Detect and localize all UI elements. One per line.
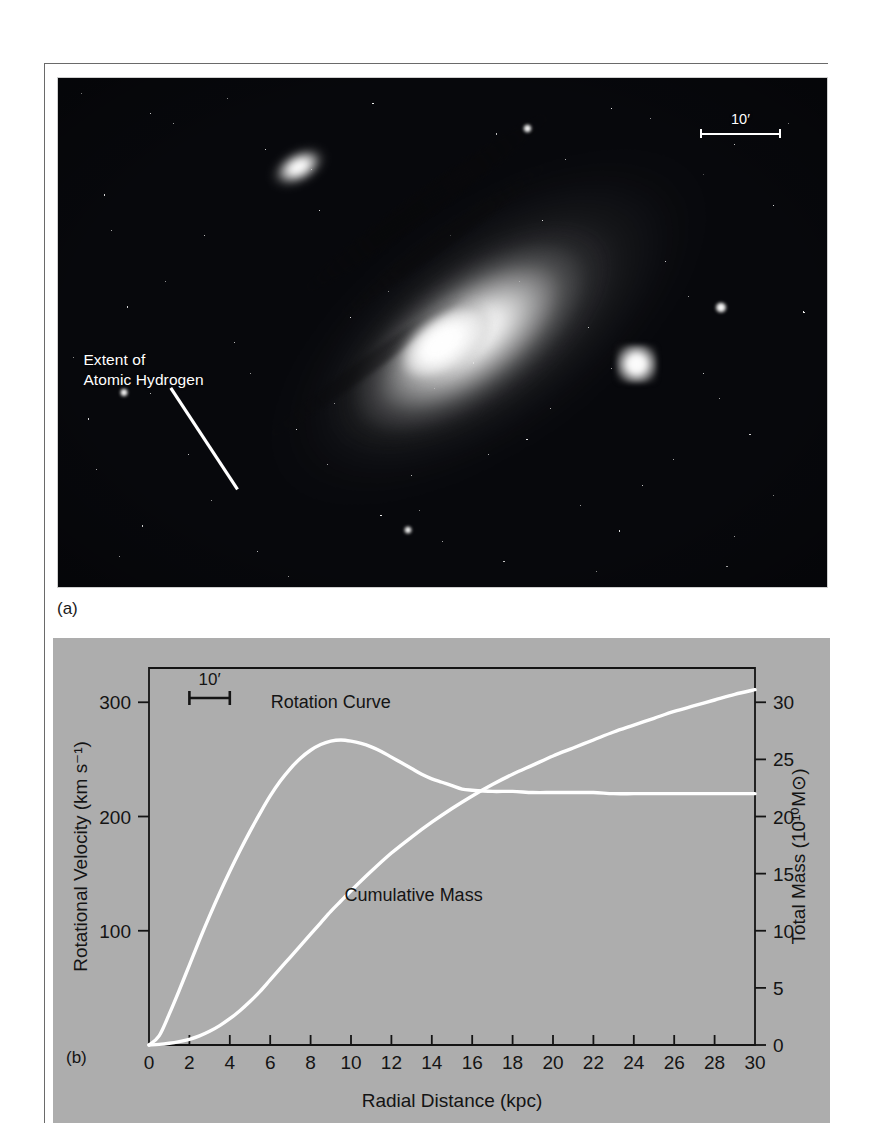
- companion-galaxy-lower-right: [616, 345, 658, 383]
- chart-svg: 0246810121416182022242628301002003000510…: [53, 638, 830, 1123]
- y-axis-left-tick-label: 100: [99, 921, 131, 942]
- x-axis-tick-label: 14: [421, 1052, 443, 1073]
- x-axis-tick-label: 18: [502, 1052, 523, 1073]
- y-axis-left-tick-label: 200: [99, 807, 131, 828]
- scalebar-cap-right: [779, 129, 781, 138]
- rotation-curve-chart: 0246810121416182022242628301002003000510…: [53, 638, 830, 1123]
- y-axis-left-title: Rotational Velocity (km s⁻¹): [70, 741, 91, 972]
- galaxy-photograph: Extent of Atomic Hydrogen 10′: [57, 77, 828, 588]
- x-axis-tick-label: 16: [462, 1052, 483, 1073]
- x-axis-tick-label: 4: [225, 1052, 236, 1073]
- scalebar-line: [700, 133, 781, 135]
- photo-scalebar-label: 10′: [700, 111, 781, 127]
- rotation-curve-label: Rotation Curve: [271, 692, 391, 712]
- chart-angular-scalebar: 10′: [189, 670, 229, 705]
- x-axis-tick-label: 10: [340, 1052, 361, 1073]
- y-axis-right-tick-label: 5: [773, 978, 784, 999]
- photo-scalebar: 10′: [700, 111, 781, 138]
- x-axis-title: Radial Distance (kpc): [362, 1090, 543, 1111]
- x-axis-tick-label: 26: [664, 1052, 685, 1073]
- y-axis-right-tick-label: 0: [773, 1035, 784, 1056]
- x-axis-tick-label: 12: [381, 1052, 402, 1073]
- panel-a: Extent of Atomic Hydrogen 10′ (a): [44, 63, 830, 623]
- x-axis-tick-label: 0: [144, 1052, 155, 1073]
- series-curve: [149, 690, 755, 1045]
- plot-frame: [149, 668, 755, 1045]
- x-axis-tick-label: 24: [623, 1052, 645, 1073]
- panel-b: 0246810121416182022242628301002003000510…: [53, 638, 830, 1123]
- x-axis-tick-label: 28: [704, 1052, 725, 1073]
- hydrogen-annotation-line-2: Atomic Hydrogen: [83, 370, 203, 389]
- photo-canvas: Extent of Atomic Hydrogen 10′: [58, 78, 827, 587]
- x-axis-tick-label: 30: [744, 1052, 765, 1073]
- photo-scalebar-bar: [700, 129, 781, 138]
- chart-scalebar-label: 10′: [199, 670, 221, 689]
- y-axis-left-tick-label: 300: [99, 692, 131, 713]
- x-axis-tick-label: 20: [542, 1052, 563, 1073]
- foreground-star: [120, 388, 128, 396]
- panel-a-label: (a): [57, 599, 78, 619]
- hydrogen-annotation-line-1: Extent of: [83, 350, 203, 369]
- x-axis-tick-label: 22: [583, 1052, 604, 1073]
- y-axis-right-tick-label: 25: [773, 749, 794, 770]
- y-axis-right-tick-label: 30: [773, 692, 794, 713]
- figure-root: Extent of Atomic Hydrogen 10′ (a) 024681…: [0, 0, 869, 1130]
- panel-b-label: (b): [66, 1048, 87, 1068]
- x-axis-tick-label: 2: [184, 1052, 195, 1073]
- hydrogen-extent-annotation: Extent of Atomic Hydrogen: [83, 350, 203, 389]
- foreground-star: [404, 526, 412, 534]
- cumulative-mass-label: Cumulative Mass: [345, 885, 483, 905]
- x-axis-tick-label: 8: [305, 1052, 316, 1073]
- x-axis-tick-label: 6: [265, 1052, 276, 1073]
- y-axis-right-title: Total Mass (10¹⁰M⊙): [788, 768, 809, 944]
